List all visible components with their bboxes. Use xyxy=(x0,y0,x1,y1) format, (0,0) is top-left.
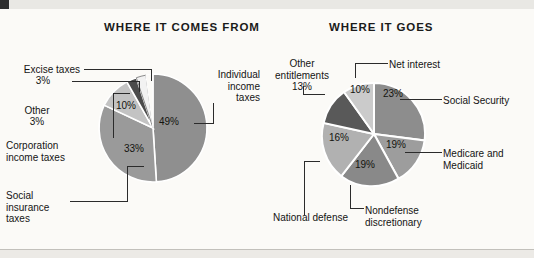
label-medicare-medicaid: Medicare and Medicaid xyxy=(443,148,529,171)
leader-individual-horizontal xyxy=(194,123,214,124)
figure-container: WHERE IT COMES FROM 49% 33% 10% Excise t… xyxy=(0,0,534,258)
leader-other-vertical xyxy=(139,81,140,92)
slice-value-nondefense-discretionary: 19% xyxy=(355,159,375,170)
chart-title-right: WHERE IT GOES xyxy=(329,21,433,33)
slice-value-social-insurance-taxes: 33% xyxy=(124,143,144,154)
label-national-defense: National defense xyxy=(273,212,363,224)
label-corporation-income-taxes: Corporation income taxes xyxy=(6,140,96,163)
leader-other-horizontal xyxy=(72,81,140,82)
leader-net-interest-vertical xyxy=(355,63,356,78)
slice-value-medicare-medicaid: 19% xyxy=(386,139,406,150)
leader-net-interest-horizontal xyxy=(355,63,388,64)
leader-social-insurance-vertical xyxy=(127,166,128,202)
label-individual-income-taxes: Individual income taxes xyxy=(190,69,260,104)
leader-nondefense-horizontal xyxy=(350,208,364,209)
label-other: Other xyxy=(6,105,68,117)
slice-value-corporation-income-taxes: 10% xyxy=(116,100,136,111)
label-other-value: 3% xyxy=(6,116,68,128)
scan-edge-bottom xyxy=(0,249,534,258)
leader-nondefense-vertical xyxy=(350,185,351,209)
label-other-entitlements: Other entitlements 13% xyxy=(263,58,341,93)
leader-national-defense-hook xyxy=(304,161,320,162)
slice-value-social-security: 23% xyxy=(383,88,403,99)
leader-excise-taxes-vertical xyxy=(151,69,152,81)
slice-value-individual-income-taxes: 49% xyxy=(159,116,179,127)
slice-value-national-defense: 16% xyxy=(329,132,349,143)
slice-value-net-interest: 10% xyxy=(350,84,370,95)
leader-corporation-vertical xyxy=(113,93,114,138)
leader-social-security-horizontal xyxy=(400,99,442,100)
figure-panel-background xyxy=(0,9,534,250)
leader-individual-vertical xyxy=(213,103,214,124)
label-excise-taxes: Excise taxes xyxy=(6,64,80,76)
leader-social-insurance-hook xyxy=(127,166,144,167)
leader-social-insurance-horizontal xyxy=(70,201,128,202)
chart-title-left: WHERE IT COMES FROM xyxy=(104,21,260,33)
label-nondefense-discretionary: Nondefense discretionary xyxy=(365,205,447,228)
leader-national-defense-vertical xyxy=(304,161,305,215)
leader-other-entitlements-horizontal xyxy=(303,94,325,95)
leader-excise-taxes-horizontal xyxy=(84,69,152,70)
label-social-security: Social Security xyxy=(443,95,531,107)
label-social-insurance-taxes: Social insurance taxes xyxy=(6,190,72,225)
label-excise-taxes-value: 3% xyxy=(6,75,80,87)
leader-medicare-horizontal xyxy=(405,152,442,153)
leader-corporation-horizontal xyxy=(113,93,130,94)
label-net-interest: Net interest xyxy=(389,59,459,71)
